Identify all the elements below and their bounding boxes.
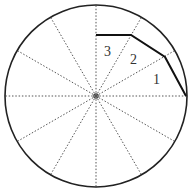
spokes: [5, 5, 187, 187]
sector-label-3: 3: [104, 44, 111, 59]
spoke-line: [96, 96, 142, 175]
sector-label-2: 2: [130, 52, 137, 67]
spoke-line: [96, 96, 175, 142]
spoke-line: [51, 96, 97, 175]
spoke-line: [17, 96, 96, 142]
sector-label-1: 1: [153, 72, 160, 87]
sector-diagram: 1 2 3: [0, 0, 189, 192]
spoke-line: [51, 17, 97, 96]
spoke-line: [17, 51, 96, 97]
